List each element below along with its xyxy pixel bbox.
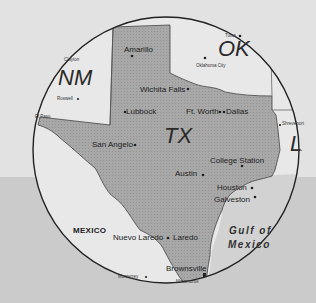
city-markers xyxy=(0,0,316,303)
